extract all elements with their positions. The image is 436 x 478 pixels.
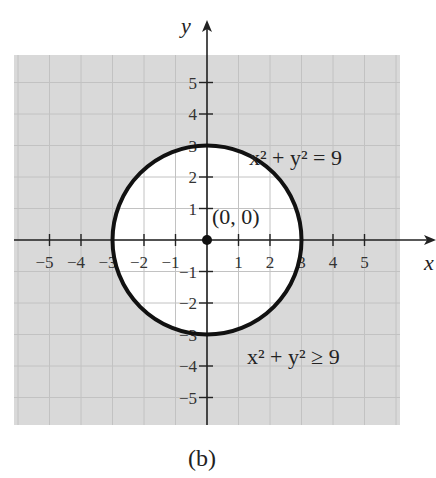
origin-label: (0, 0): [212, 204, 260, 229]
y-tick-label: −4: [179, 357, 198, 376]
x-tick-label: −5: [35, 253, 53, 272]
x-tick-label: 5: [360, 253, 369, 272]
x-tick-label: 1: [234, 253, 243, 272]
x-tick-label: −2: [130, 253, 148, 272]
inequality-graph: −5−4−3−2−112345−5−4−3−2−112345 y x (0, 0…: [0, 0, 436, 478]
figure-caption: (b): [188, 445, 216, 471]
y-tick-label: 5: [189, 74, 198, 93]
x-axis-label: x: [423, 250, 434, 275]
inequality-label: x² + y² ≥ 9: [247, 344, 340, 369]
y-tick-label: −1: [179, 263, 197, 282]
y-tick-label: 1: [189, 200, 198, 219]
x-tick-label: −4: [67, 253, 86, 272]
y-tick-label: −5: [179, 389, 197, 408]
circle-equation-label: x² + y² = 9: [249, 145, 342, 170]
y-tick-label: 2: [189, 168, 198, 187]
x-tick-label: 4: [329, 253, 338, 272]
x-tick-label: −1: [161, 253, 179, 272]
y-axis-label: y: [179, 13, 191, 38]
origin-point: [202, 235, 212, 245]
y-tick-label: 4: [189, 105, 198, 124]
x-tick-label: 2: [266, 253, 275, 272]
y-tick-label: −2: [179, 294, 197, 313]
